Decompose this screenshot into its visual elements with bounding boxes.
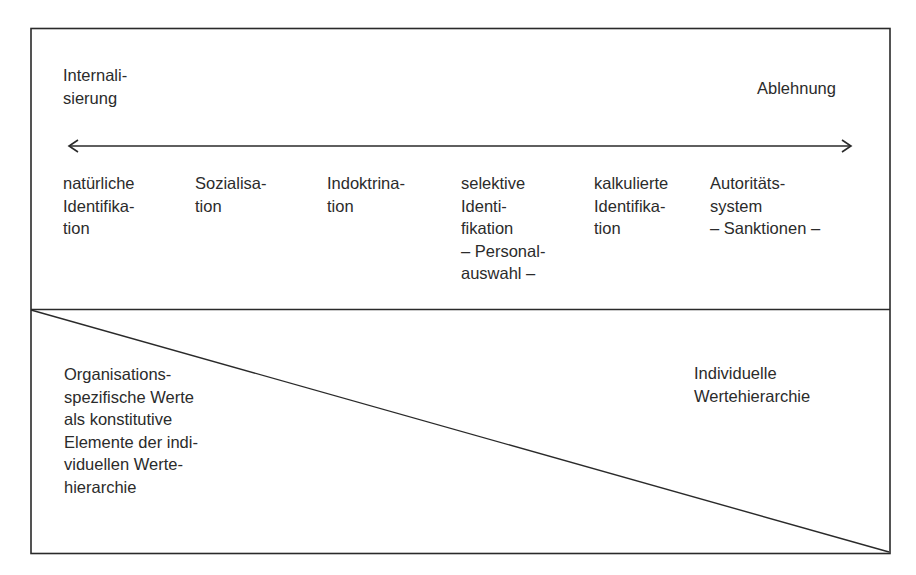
individual-value-hierarchy-label: Individuelle Wertehierarchie — [694, 362, 810, 407]
stage-autoritaetssystem: Autoritäts- system – Sanktionen – — [710, 172, 820, 240]
stage-sozialisation: Sozialisa- tion — [195, 172, 267, 217]
stage-selektive-identifikation: selektive Identi- fikation – Personal- a… — [461, 172, 545, 285]
stage-natuerliche-identifikation: natürliche Identifika- tion — [63, 172, 135, 240]
double-arrow-icon — [69, 140, 851, 152]
left-pole-label: Internali- sierung — [63, 64, 127, 109]
right-pole-label: Ablehnung — [757, 77, 836, 100]
diagram-frame: Internali- sierung Ablehnung natürliche … — [0, 0, 916, 575]
organisational-values-label: Organisations- spezifische Werte als kon… — [64, 363, 198, 498]
stage-indoktrination: Indoktrina- tion — [327, 172, 405, 217]
stage-kalkulierte-identifikation: kalkulierte Identifika- tion — [594, 172, 668, 240]
